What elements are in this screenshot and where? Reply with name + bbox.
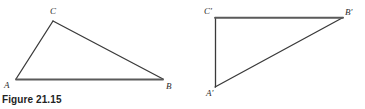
vertex-label-b: B <box>166 81 172 91</box>
vertex-label-b-prime: B′ <box>345 7 352 17</box>
vertex-label-a: A <box>4 80 10 90</box>
vertex-label-c: C <box>50 6 56 16</box>
vertex-label-a-prime: A′ <box>206 88 213 98</box>
triangle-abc-group <box>16 21 163 80</box>
segment-cb <box>53 21 163 79</box>
segment-ca <box>16 21 53 79</box>
triangle-a-prime-b-prime-c-prime-group <box>215 18 343 88</box>
figure-drawing <box>0 0 365 109</box>
figure-container: A B C A′ B′ C′ Figure 21.15 <box>0 0 365 109</box>
vertex-label-c-prime: C′ <box>204 6 212 16</box>
segment-a-prime-b-prime <box>215 18 343 88</box>
figure-caption: Figure 21.15 <box>2 94 62 106</box>
